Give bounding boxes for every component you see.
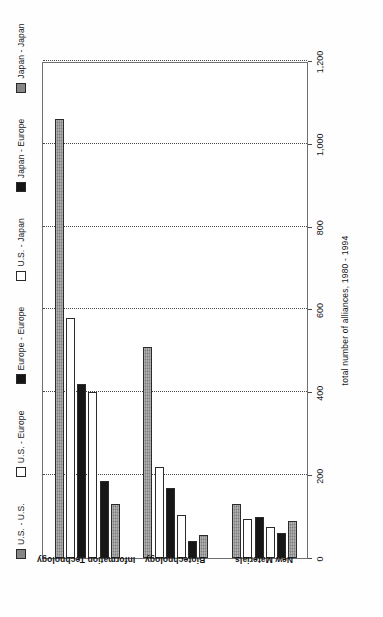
bar bbox=[100, 481, 109, 558]
bar bbox=[255, 517, 264, 558]
bar bbox=[277, 533, 286, 558]
legend-label: U.S. - U.S. bbox=[16, 503, 26, 545]
gridline bbox=[43, 60, 307, 61]
bar bbox=[111, 504, 120, 558]
bar-groups bbox=[43, 63, 307, 558]
bar bbox=[199, 535, 208, 558]
bar bbox=[77, 384, 86, 558]
legend-swatch-icon bbox=[16, 83, 26, 93]
value-axis: 02004006008001,0001,200 bbox=[308, 62, 312, 559]
bar bbox=[232, 504, 241, 558]
axis-tick-label: 200 bbox=[315, 469, 325, 484]
chart-legend: U.S. - U.S.U.S. - EuropeEurope - EuropeU… bbox=[6, 39, 36, 559]
bar bbox=[177, 515, 186, 558]
bar bbox=[143, 347, 152, 558]
legend-label: U.S. - Japan bbox=[16, 218, 26, 266]
rotated-figure: U.S. - U.S.U.S. - EuropeEurope - EuropeU… bbox=[0, 0, 383, 617]
bar bbox=[243, 519, 252, 558]
legend-swatch-icon bbox=[16, 271, 26, 281]
bar bbox=[66, 318, 75, 558]
bar-group bbox=[132, 63, 221, 558]
bar bbox=[288, 521, 297, 558]
axis-tick bbox=[308, 392, 312, 393]
legend-label: Europe - Europe bbox=[16, 307, 26, 371]
legend-item[interactable]: Europe - Europe bbox=[16, 307, 26, 385]
legend-item[interactable]: Japan - Japan bbox=[16, 23, 26, 92]
legend-item[interactable]: U.S. - Japan bbox=[16, 218, 26, 280]
legend-swatch-icon bbox=[16, 549, 26, 559]
axis-tick-label: 600 bbox=[315, 303, 325, 318]
axis-tick bbox=[308, 144, 312, 145]
legend-item[interactable]: U.S. - Europe bbox=[16, 410, 26, 477]
legend-label: Japan - Japan bbox=[16, 23, 26, 78]
bar bbox=[166, 488, 175, 558]
legend-item[interactable]: U.S. - U.S. bbox=[16, 503, 26, 559]
axis-tick-label: 0 bbox=[315, 556, 325, 561]
bar-group bbox=[43, 63, 132, 558]
bar bbox=[88, 392, 97, 558]
axis-tick-label: 1,200 bbox=[315, 51, 325, 74]
legend-item[interactable]: Japan - Europe bbox=[16, 119, 26, 193]
legend-swatch-icon bbox=[16, 374, 26, 384]
axis-tick bbox=[308, 61, 312, 62]
bar bbox=[188, 541, 197, 558]
plot-area bbox=[42, 62, 308, 559]
legend-swatch-icon bbox=[16, 182, 26, 192]
axis-tick bbox=[308, 558, 312, 559]
axis-tick bbox=[308, 475, 312, 476]
axis-tick bbox=[308, 310, 312, 311]
legend-swatch-icon bbox=[16, 467, 26, 477]
axis-tick-label: 400 bbox=[315, 386, 325, 401]
axis-tick-label: 1,000 bbox=[315, 134, 325, 157]
chart-canvas: U.S. - U.S.U.S. - EuropeEurope - EuropeU… bbox=[0, 0, 383, 617]
legend-label: U.S. - Europe bbox=[16, 410, 26, 463]
bar bbox=[266, 527, 275, 558]
bar-group bbox=[220, 63, 309, 558]
legend-label: Japan - Europe bbox=[16, 119, 26, 179]
axis-title: total number of alliances, 1980 - 1994 bbox=[340, 62, 350, 559]
bar bbox=[55, 119, 64, 558]
axis-tick bbox=[308, 227, 312, 228]
bar bbox=[155, 467, 164, 558]
axis-tick-label: 800 bbox=[315, 220, 325, 235]
